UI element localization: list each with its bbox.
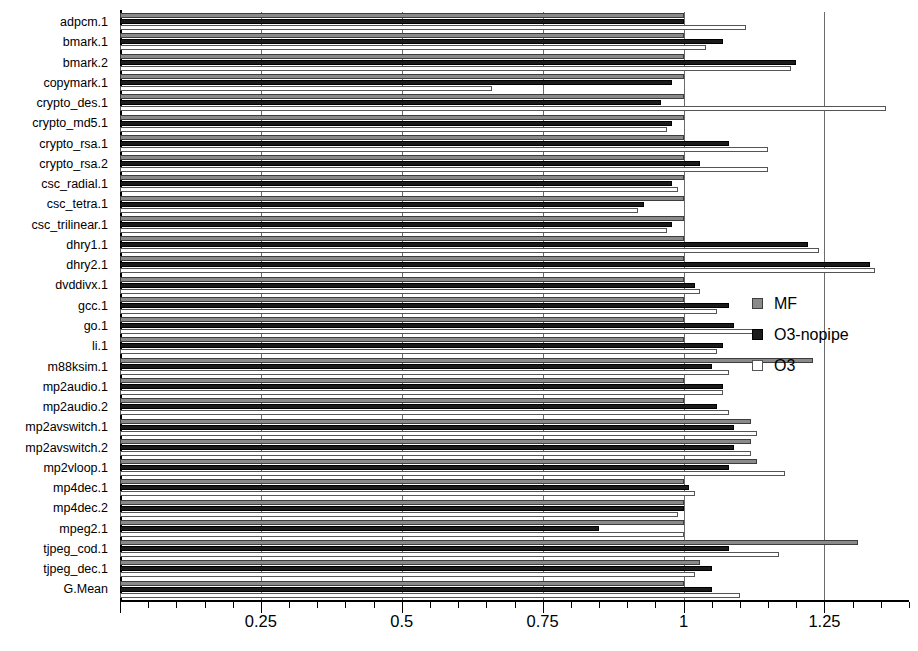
bar-mf (120, 54, 684, 59)
bar-o3 (120, 86, 492, 91)
bar-o3-nopipe (120, 546, 729, 551)
y-axis-label: G.Mean (0, 579, 114, 599)
legend-item[interactable]: O3 (752, 350, 912, 381)
y-axis-label: mp2audio.1 (0, 377, 114, 397)
bar-o3 (120, 451, 751, 456)
bar-o3-nopipe (120, 39, 723, 44)
bar-o3-nopipe (120, 283, 695, 288)
bar-o3-nopipe (120, 566, 712, 571)
x-tick-minor (740, 602, 741, 608)
y-axis-label: mp2vloop.1 (0, 458, 114, 478)
bar-group (120, 559, 909, 579)
x-tick-minor (712, 602, 713, 608)
bar-group (120, 93, 909, 113)
x-tick-label: 0.25 (245, 612, 277, 631)
legend-swatch-icon (752, 298, 763, 309)
bar-o3 (120, 289, 700, 294)
bar-o3-nopipe (120, 506, 684, 511)
bar-o3 (120, 106, 886, 111)
y-axis-label: crypto_rsa.2 (0, 154, 114, 174)
y-axis-label: dvddivx.1 (0, 275, 114, 295)
bar-group (120, 154, 909, 174)
bar-group (120, 417, 909, 437)
bar-o3 (120, 66, 791, 71)
x-tick-label: 0.75 (527, 612, 559, 631)
y-axis-label: adpcm.1 (0, 12, 114, 32)
bar-group (120, 579, 909, 599)
y-axis-label: dhry2.1 (0, 255, 114, 275)
bar-o3-nopipe (120, 202, 644, 207)
bar-o3-nopipe (120, 161, 700, 166)
x-tick-minor (853, 602, 854, 608)
bar-mf (120, 236, 684, 241)
bar-o3-nopipe (120, 262, 870, 267)
bar-o3-nopipe (120, 141, 729, 146)
bar-group (120, 32, 909, 52)
bar-o3 (120, 512, 678, 517)
y-axis-label: gcc.1 (0, 296, 114, 316)
x-tick-minor (205, 602, 206, 608)
x-tick-minor (796, 602, 797, 608)
legend-item[interactable]: O3-nopipe (752, 319, 912, 350)
y-axis-label: m88ksim.1 (0, 357, 114, 377)
bar-o3-nopipe (120, 425, 734, 430)
bar-mf (120, 581, 684, 586)
bar-o3-nopipe (120, 181, 672, 186)
bar-group (120, 174, 909, 194)
x-tick-minor (289, 602, 290, 608)
bar-o3 (120, 127, 667, 132)
bar-mf (120, 256, 684, 261)
x-tick-minor (430, 602, 431, 608)
bar-group (120, 438, 909, 458)
x-tick-minor (317, 602, 318, 608)
bar-o3 (120, 248, 819, 253)
legend-label: O3 (774, 357, 795, 375)
y-axis-label: bmark.1 (0, 32, 114, 52)
x-tick-minor (515, 602, 516, 608)
bar-o3 (120, 410, 729, 415)
bar-mf (120, 196, 684, 201)
bar-o3 (120, 329, 757, 334)
bar-mf (120, 155, 684, 160)
bar-o3 (120, 370, 729, 375)
x-tick-label: 0.5 (390, 612, 413, 631)
bar-mf (120, 560, 700, 565)
y-axis-label: mp4dec.1 (0, 478, 114, 498)
y-axis-label: go.1 (0, 316, 114, 336)
bar-o3 (120, 208, 638, 213)
y-axis-label: li.1 (0, 336, 114, 356)
x-tick-minor (233, 602, 234, 608)
bar-o3-nopipe (120, 485, 689, 490)
bar-o3 (120, 147, 768, 152)
bar-o3 (120, 471, 785, 476)
y-axis-label: copymark.1 (0, 73, 114, 93)
x-tick-label: 1.25 (808, 612, 840, 631)
bar-mf (120, 33, 684, 38)
y-axis-label: mpeg2.1 (0, 519, 114, 539)
y-axis-category-labels: adpcm.1bmark.1bmark.2copymark.1crypto_de… (0, 12, 114, 600)
bar-mf (120, 479, 684, 484)
bar-o3-nopipe (120, 100, 661, 105)
bar-o3-nopipe (120, 384, 723, 389)
bar-o3 (120, 45, 706, 50)
bar-group (120, 519, 909, 539)
bar-o3 (120, 593, 740, 598)
bar-mf (120, 419, 751, 424)
x-tick-minor (345, 602, 346, 608)
y-axis-label: tjpeg_cod.1 (0, 539, 114, 559)
bar-group (120, 12, 909, 32)
y-axis-label: csc_trilinear.1 (0, 215, 114, 235)
legend: MFO3-nopipeO3 (752, 288, 912, 381)
bar-o3 (120, 25, 746, 30)
bar-o3 (120, 309, 717, 314)
bar-o3 (120, 491, 695, 496)
bar-mf (120, 277, 684, 282)
legend-item[interactable]: MF (752, 288, 912, 319)
bar-mf (120, 337, 684, 342)
bar-o3 (120, 572, 695, 577)
y-axis-label: mp4dec.2 (0, 498, 114, 518)
y-axis-label: crypto_des.1 (0, 93, 114, 113)
x-tick-minor (458, 602, 459, 608)
bar-o3-nopipe (120, 526, 599, 531)
y-axis-label: mp2avswitch.2 (0, 438, 114, 458)
